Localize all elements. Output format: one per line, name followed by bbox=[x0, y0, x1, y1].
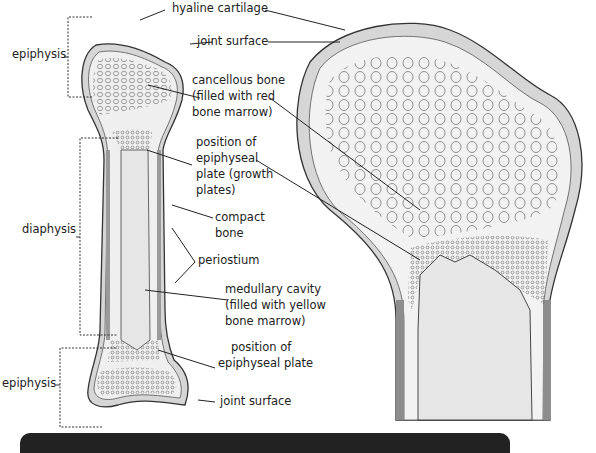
long-bone-small bbox=[82, 44, 188, 407]
label-periostium: periostium bbox=[198, 253, 260, 268]
label-medullary-cavity: medullary cavity bbox=[225, 282, 321, 297]
label-epiphyseal-plate-line3: plate (growth bbox=[196, 167, 273, 182]
label-medullary-cavity-line3: bone marrow) bbox=[225, 314, 306, 329]
label-cancellous-bone-line2: (filled with red bbox=[192, 89, 275, 104]
label-epiphysis-bottom: epiphysis bbox=[2, 376, 56, 391]
label-epiphysis-top: epiphysis bbox=[12, 47, 66, 62]
label-compact-bone: compact bbox=[215, 210, 265, 225]
footer-bar bbox=[20, 433, 510, 453]
label-cancellous-bone: cancellous bone bbox=[192, 73, 285, 88]
label-joint-surface-bottom: joint surface bbox=[220, 394, 291, 409]
label-epiphyseal-plate-line2: epiphyseal bbox=[196, 151, 258, 166]
label-joint-surface-top: joint surface bbox=[197, 34, 268, 49]
bone-head-magnified bbox=[297, 23, 582, 420]
label-compact-bone-line2: bone bbox=[215, 226, 244, 241]
label-medullary-cavity-line2: (filled with yellow bbox=[225, 298, 326, 313]
label-epiphyseal-plate: position of bbox=[196, 135, 256, 150]
label-cancellous-bone-line3: bone marrow) bbox=[192, 105, 273, 120]
label-diaphysis: diaphysis bbox=[22, 222, 76, 237]
label-hyaline-cartilage: hyaline cartilage bbox=[172, 1, 268, 16]
label-epiphyseal-plate-bottom-line2: epiphyseal plate bbox=[218, 356, 313, 371]
label-epiphyseal-plate-bottom: position of bbox=[231, 340, 291, 355]
label-epiphyseal-plate-line4: plates) bbox=[196, 183, 236, 198]
